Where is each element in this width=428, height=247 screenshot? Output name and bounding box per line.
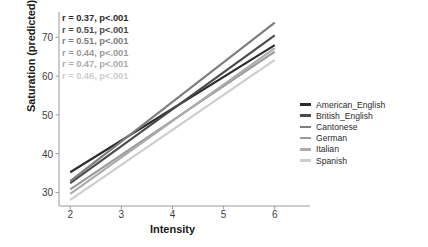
legend-label: Italian: [316, 144, 339, 154]
x-tick-label: 2: [58, 209, 82, 220]
legend-swatch-icon: [300, 148, 311, 151]
correlation-annotation: r = 0.44, p<.001: [62, 47, 128, 59]
legend-swatch-icon: [300, 126, 311, 129]
correlation-annotation: r = 0.51, p<.001: [62, 24, 128, 36]
x-tick-label: 3: [109, 209, 133, 220]
correlation-annotation: r = 0.37, p<.001: [62, 12, 128, 24]
y-tick-label: 40: [27, 148, 53, 159]
legend-swatch-icon: [300, 159, 311, 162]
correlation-annotation: r = 0.47, p<.001: [62, 58, 128, 70]
legend-item[interactable]: Cantonese: [300, 121, 385, 132]
legend-item[interactable]: Italian: [300, 144, 385, 155]
legend-swatch-icon: [300, 137, 311, 140]
y-tick-label: 30: [27, 187, 53, 198]
legend-swatch-icon: [300, 103, 311, 106]
y-tick-label: 50: [27, 109, 53, 120]
chart-legend: American_EnglishBritish_EnglishCantonese…: [300, 99, 385, 166]
x-axis-ticks: 23456: [0, 205, 428, 235]
legend-label: American_English: [316, 100, 385, 110]
legend-swatch-icon: [300, 114, 311, 117]
legend-label: British_English: [316, 111, 373, 121]
chart-figure: Saturation (predicted) Intensity 3040506…: [0, 0, 428, 247]
correlation-annotation: r = 0.46, p<.001: [62, 70, 128, 82]
legend-label: German: [316, 133, 347, 143]
legend-item[interactable]: Spanish: [300, 155, 385, 166]
legend-item[interactable]: American_English: [300, 99, 385, 110]
legend-item[interactable]: German: [300, 133, 385, 144]
correlation-annotation: r = 0.51, p<.001: [62, 35, 128, 47]
x-tick-label: 6: [263, 209, 287, 220]
y-tick-label: 70: [27, 32, 53, 43]
legend-label: Cantonese: [316, 122, 358, 132]
correlation-annotations: r = 0.37, p<.001r = 0.51, p<.001r = 0.51…: [62, 12, 128, 82]
x-tick-label: 4: [161, 209, 185, 220]
x-tick-label: 5: [212, 209, 236, 220]
y-tick-label: 60: [27, 71, 53, 82]
legend-item[interactable]: British_English: [300, 110, 385, 121]
legend-label: Spanish: [316, 156, 347, 166]
